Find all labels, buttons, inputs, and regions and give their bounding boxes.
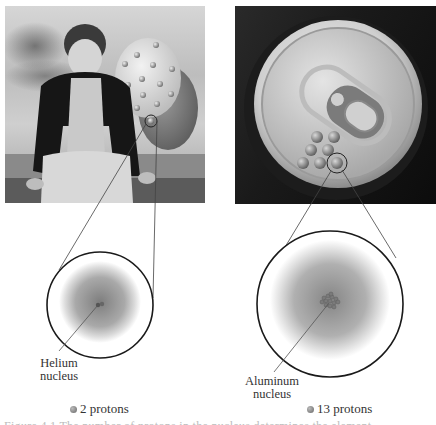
- figure-caption-partial: Figure 4.1 The number of protons in the …: [0, 419, 436, 425]
- aluminum-atom-magnified: [257, 231, 403, 377]
- proton-dot-icon: [70, 406, 77, 413]
- helium-label-line2: nucleus: [24, 370, 94, 383]
- helium-nucleus-label: Helium nucleus: [24, 357, 94, 383]
- helium-electron-cloud: [59, 261, 141, 343]
- zoom-line-left-b: [153, 121, 157, 298]
- caption-text: Figure 4.1 The number of protons in the …: [0, 419, 436, 425]
- aluminum-proton-count: 13 protons: [317, 401, 372, 417]
- aluminum-label-line2: nucleus: [232, 388, 312, 401]
- helium-atom-magnified: [47, 252, 153, 358]
- aluminum-nucleus-label: Aluminum nucleus: [232, 375, 312, 401]
- proton-dot-icon: [307, 406, 314, 413]
- aluminum-proton-legend: 13 protons: [307, 401, 372, 417]
- helium-proton-legend: 2 protons: [70, 401, 129, 417]
- zoom-line-left-a: [59, 124, 146, 270]
- helium-proton-count: 2 protons: [80, 401, 129, 417]
